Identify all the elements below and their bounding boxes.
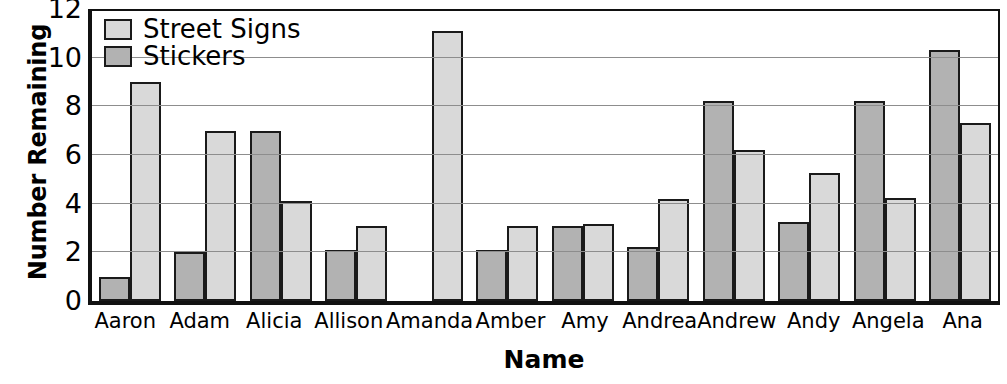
x-tick-label: Andy (776, 309, 851, 334)
bar-stickers (99, 277, 130, 301)
legend: Street SignsStickers (104, 16, 301, 69)
bar-group (621, 11, 697, 301)
bar-group (847, 11, 923, 301)
bar-stickers (778, 222, 809, 301)
legend-entry: Stickers (104, 43, 301, 69)
bar-signs (432, 31, 463, 301)
bar-signs (658, 199, 689, 301)
y-axis-tick-labels: 121086420 (38, 0, 82, 330)
bar-stickers (703, 101, 734, 301)
x-tick-label: Alicia (237, 309, 312, 334)
bar-stickers (476, 250, 507, 301)
x-axis-tick-labels: AaronAdamAliciaAllisonAmandaAmberAmyAndr… (88, 309, 1000, 334)
x-axis-title: Name (88, 345, 1000, 374)
bar-stickers (174, 252, 205, 301)
bar-group (545, 11, 621, 301)
bar-stickers (325, 250, 356, 301)
bar-stickers (627, 247, 658, 301)
y-tick-label: 10 (38, 44, 82, 71)
bar-signs (809, 173, 840, 301)
y-tick-label: 12 (38, 0, 82, 22)
gridline (92, 251, 998, 252)
bar-stickers (250, 131, 281, 301)
y-tick-label: 2 (38, 238, 82, 265)
legend-entry: Street Signs (104, 16, 301, 42)
bar-stickers (552, 226, 583, 301)
x-tick-label: Angela (851, 309, 926, 334)
gridline (92, 203, 998, 204)
bar-signs (130, 82, 161, 301)
legend-label: Stickers (143, 43, 246, 69)
bar-signs (960, 123, 991, 301)
y-tick-label: 4 (38, 190, 82, 217)
legend-label: Street Signs (143, 16, 301, 42)
bar-group (696, 11, 772, 301)
bar-group (319, 11, 395, 301)
legend-swatch-signs (104, 19, 132, 40)
bar-group (470, 11, 546, 301)
bar-signs (885, 198, 916, 301)
x-tick-label: Andrew (697, 309, 776, 334)
x-tick-label: Amy (548, 309, 623, 334)
bar-group (923, 11, 999, 301)
bar-signs (507, 226, 538, 301)
x-tick-label: Amber (473, 309, 548, 334)
gridline (92, 105, 998, 106)
x-tick-label: Ana (925, 309, 1000, 334)
x-tick-label: Allison (312, 309, 387, 334)
gridline (92, 154, 998, 155)
x-tick-label: Amanda (386, 309, 473, 334)
bar-stickers (929, 50, 960, 301)
bar-signs (205, 131, 236, 301)
bar-signs (583, 224, 614, 301)
bar-group (394, 11, 470, 301)
legend-swatch-stickers (104, 46, 132, 67)
y-tick-label: 0 (38, 287, 82, 314)
bar-signs (734, 150, 765, 301)
bar-signs (356, 226, 387, 301)
y-tick-label: 8 (38, 92, 82, 119)
y-tick-label: 6 (38, 141, 82, 168)
bar-chart: Number Remaining 121086420 Street SignsS… (0, 0, 1007, 384)
x-tick-label: Andrea (622, 309, 697, 334)
x-tick-label: Aaron (88, 309, 163, 334)
bar-stickers (854, 101, 885, 301)
x-tick-label: Adam (163, 309, 238, 334)
bar-group (772, 11, 848, 301)
